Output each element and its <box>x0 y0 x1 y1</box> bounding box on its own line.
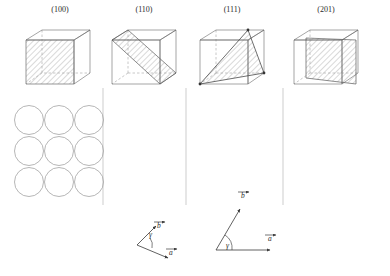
vector-label-b-oblique: b <box>157 221 161 230</box>
packing-100 <box>15 106 104 197</box>
packing-111 <box>171 104 291 206</box>
crystal-planes-figure <box>0 0 390 276</box>
packing-row <box>15 104 376 206</box>
panel-dividers <box>103 88 283 205</box>
vector-label-a-rect: a <box>268 234 272 243</box>
plane-label-110: (110) <box>122 5 166 14</box>
angle-label-gamma-oblique: γ <box>149 230 152 239</box>
vector-label-a-oblique: a <box>169 248 173 257</box>
cube-100 <box>26 30 90 84</box>
plane-label-100: (100) <box>38 5 82 14</box>
cube-row <box>26 29 358 86</box>
packing-110 <box>101 105 192 198</box>
plane-label-111: (111) <box>210 5 254 14</box>
cube-111 <box>199 29 266 86</box>
cube-201 <box>294 30 358 84</box>
angle-label-gamma-rect: γ <box>226 241 229 250</box>
plane-label-201: (201) <box>304 5 348 14</box>
vector-label-b-rect: b <box>241 191 245 200</box>
cube-110 <box>112 30 176 84</box>
vector-diagram-rectangular <box>216 192 276 250</box>
packing-201 <box>291 106 375 204</box>
